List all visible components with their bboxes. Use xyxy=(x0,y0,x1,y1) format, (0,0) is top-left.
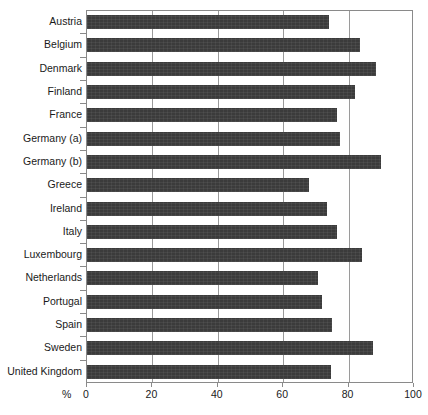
bar-row xyxy=(87,104,412,127)
y-axis-tick xyxy=(80,266,86,267)
bar-row xyxy=(87,58,412,81)
y-axis-label-greece: Greece xyxy=(0,178,82,190)
y-axis-label-ireland: Ireland xyxy=(0,202,82,214)
bar xyxy=(87,15,329,29)
y-axis-label-france: France xyxy=(0,108,82,120)
y-axis-tick xyxy=(80,197,86,198)
bar xyxy=(87,132,340,146)
bar-row xyxy=(87,34,412,57)
bar xyxy=(87,295,322,309)
bar xyxy=(87,365,331,379)
y-axis-tick xyxy=(80,243,86,244)
x-axis-tick-0 xyxy=(86,383,87,387)
x-axis-tick-label-20: 20 xyxy=(146,388,158,400)
y-axis-tick xyxy=(80,360,86,361)
bar-row xyxy=(87,198,412,221)
bar xyxy=(87,38,360,52)
x-axis-tick-40 xyxy=(217,383,218,387)
y-axis-tick xyxy=(80,173,86,174)
bar xyxy=(87,271,318,285)
y-axis-label-denmark: Denmark xyxy=(0,62,82,74)
y-axis-label-portugal: Portugal xyxy=(0,295,82,307)
bar-row xyxy=(87,244,412,267)
y-axis-tick xyxy=(80,57,86,58)
y-axis-tick xyxy=(80,80,86,81)
y-axis-tick xyxy=(80,313,86,314)
y-axis-label-germany-b: Germany (b) xyxy=(0,155,82,167)
bar-row xyxy=(87,221,412,244)
bar xyxy=(87,202,327,216)
y-axis-tick xyxy=(80,127,86,128)
y-axis-label-spain: Spain xyxy=(0,318,82,330)
y-axis-tick xyxy=(80,336,86,337)
y-axis-label-finland: Finland xyxy=(0,85,82,97)
bar-row xyxy=(87,291,412,314)
y-axis-tick xyxy=(80,103,86,104)
x-axis-tick-label-100: 100 xyxy=(404,388,422,400)
bar xyxy=(87,225,337,239)
x-axis-tick-label-40: 40 xyxy=(211,388,223,400)
y-axis-tick xyxy=(80,220,86,221)
bar-row xyxy=(87,81,412,104)
bar xyxy=(87,62,376,76)
x-axis-tick-60 xyxy=(282,383,283,387)
y-axis-label-united-kingdom: United Kingdom xyxy=(0,365,82,377)
x-axis-tick-100 xyxy=(413,383,414,387)
bar-row xyxy=(87,314,412,337)
bar-row xyxy=(87,337,412,360)
y-axis-tick xyxy=(80,33,86,34)
y-axis-category-labels: AustriaBelgiumDenmarkFinlandFranceGerman… xyxy=(0,10,82,383)
bar-rows xyxy=(87,11,412,382)
y-axis-label-italy: Italy xyxy=(0,225,82,237)
y-axis-label-luxembourg: Luxembourg xyxy=(0,248,82,260)
bar-row xyxy=(87,11,412,34)
y-axis-label-sweden: Sweden xyxy=(0,341,82,353)
bar-chart: AustriaBelgiumDenmarkFinlandFranceGerman… xyxy=(0,0,428,415)
y-axis-label-austria: Austria xyxy=(0,15,82,27)
bar xyxy=(87,318,332,332)
bar xyxy=(87,248,362,262)
plot-area xyxy=(86,10,413,383)
x-axis-tick-label-80: 80 xyxy=(342,388,354,400)
bar-row xyxy=(87,174,412,197)
y-axis-label-germany-a: Germany (a) xyxy=(0,132,82,144)
bar xyxy=(87,178,309,192)
x-axis-unit-label: % xyxy=(62,388,71,400)
y-axis-tick xyxy=(80,290,86,291)
y-axis-label-belgium: Belgium xyxy=(0,38,82,50)
bar-row xyxy=(87,151,412,174)
bar xyxy=(87,108,337,122)
x-axis-tick-label-0: 0 xyxy=(83,388,89,400)
bar xyxy=(87,155,381,169)
bar xyxy=(87,85,355,99)
bar-row xyxy=(87,128,412,151)
bar xyxy=(87,341,373,355)
x-axis-tick-label-60: 60 xyxy=(276,388,288,400)
x-axis-tick-80 xyxy=(348,383,349,387)
y-axis-tick xyxy=(80,150,86,151)
y-axis-label-netherlands: Netherlands xyxy=(0,271,82,283)
x-axis-tick-20 xyxy=(151,383,152,387)
bar-row xyxy=(87,267,412,290)
bar-row xyxy=(87,361,412,384)
